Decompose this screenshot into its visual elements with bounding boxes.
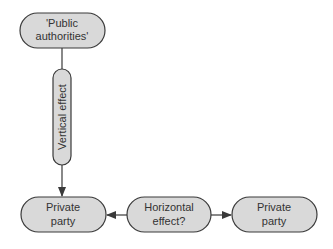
node-label: Private	[257, 201, 291, 213]
diagram-canvas: 'Public authorities' Vertical effect Pri…	[0, 0, 333, 249]
node-label: Private	[46, 201, 80, 213]
node-label: 'Public	[46, 17, 79, 29]
node-vertical-effect: Vertical effect	[53, 69, 71, 165]
node-private-party-right: Private party	[232, 197, 317, 232]
node-label: effect?	[153, 215, 186, 227]
node-label: authorities'	[36, 30, 89, 42]
node-label: party	[262, 215, 287, 227]
node-private-party-left: Private party	[21, 197, 106, 232]
node-horizontal-effect: Horizontal effect?	[127, 197, 211, 232]
node-label: party	[51, 215, 76, 227]
node-public-authorities: 'Public authorities'	[20, 13, 105, 48]
node-label: Horizontal	[144, 201, 194, 213]
node-label: Vertical effect	[56, 84, 68, 150]
